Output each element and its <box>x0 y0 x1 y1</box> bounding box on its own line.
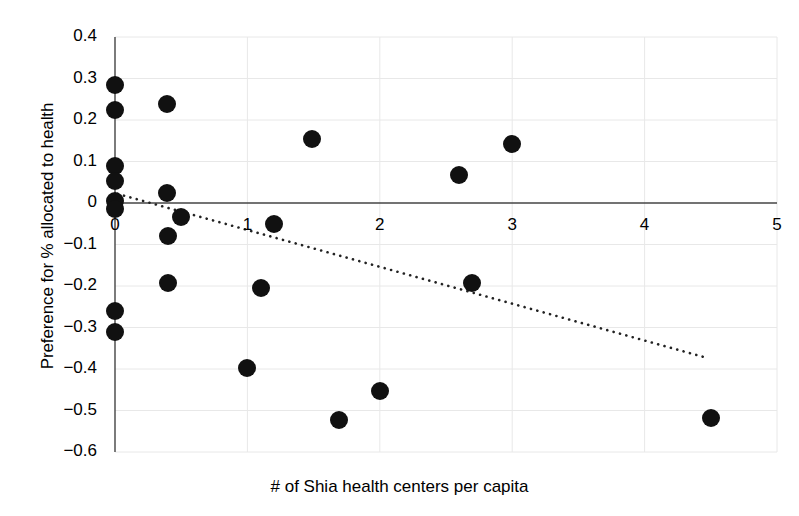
x-axis-title: # of Shia health centers per capita <box>0 477 799 497</box>
data-point <box>265 215 283 233</box>
y-axis-title: Preference for % allocated to health <box>38 36 58 436</box>
data-point <box>450 166 468 184</box>
data-point <box>158 95 176 113</box>
data-point <box>106 302 124 320</box>
data-point <box>106 101 124 119</box>
x-tick-label: 4 <box>630 215 660 235</box>
x-tick-label: 3 <box>497 215 527 235</box>
scatter-chart-figure: 0.40.30.20.10−0.1−0.2−0.3−0.4−0.5−0.6 01… <box>0 0 799 516</box>
data-point <box>252 279 270 297</box>
data-point <box>158 184 176 202</box>
data-point <box>159 274 177 292</box>
x-tick-label: 1 <box>232 215 262 235</box>
data-point <box>106 76 124 94</box>
gridlines-group <box>115 37 777 452</box>
data-point <box>371 382 389 400</box>
x-tick-label: 0 <box>100 215 130 235</box>
data-point <box>702 409 720 427</box>
data-point <box>159 227 177 245</box>
x-tick-label: 2 <box>365 215 395 235</box>
trendline <box>118 194 709 358</box>
y-tick-label: −0.6 <box>35 441 97 461</box>
x-tick-label: 5 <box>762 215 792 235</box>
